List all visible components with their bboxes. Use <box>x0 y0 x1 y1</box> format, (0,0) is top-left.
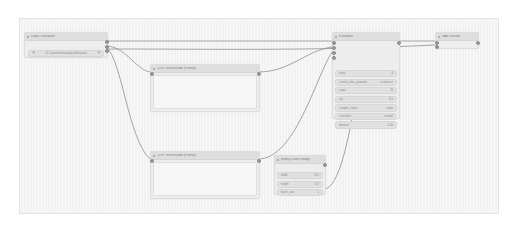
widget-seed[interactable]: seed 0 <box>335 70 397 77</box>
node-title-bar[interactable]: VAE Decode <box>436 33 478 41</box>
node-clip-text-encode-positive[interactable]: CLIP Text Encode (Prompt) <box>150 64 260 112</box>
node-graph-canvas[interactable]: Load Checkpoint ◀ v1-5-pruned-emaonly.sa… <box>19 18 499 214</box>
widget-label: control_after_generate <box>339 81 367 84</box>
widget-steps[interactable]: steps 20 <box>335 87 397 94</box>
widget-label: cfg <box>339 98 343 101</box>
node-body: width 512 height 512 batch_size 1 <box>275 164 325 198</box>
widget-batch-size[interactable]: batch_size 1 <box>277 189 323 196</box>
widget-label: steps <box>339 89 346 92</box>
widget-label: scheduler <box>339 115 351 118</box>
widget-control-after-generate[interactable]: control_after_generate randomize <box>335 79 397 86</box>
collapse-icon[interactable] <box>277 159 279 161</box>
node-title-text: VAE Decode <box>442 35 460 38</box>
node-title-text: Load Checkpoint <box>31 35 55 38</box>
widget-value: 20 <box>390 89 393 92</box>
collapse-icon[interactable] <box>438 36 440 38</box>
node-title-bar[interactable]: Empty Latent Image <box>275 156 325 164</box>
node-title-bar[interactable]: KSampler <box>333 33 399 41</box>
widget-value: 512 <box>314 174 319 177</box>
collapse-icon[interactable] <box>335 36 337 38</box>
node-title-text: CLIP Text Encode (Prompt) <box>157 154 196 157</box>
node-title-text: Empty Latent Image <box>281 158 310 161</box>
widget-ckpt-name[interactable]: ◀ v1-5-pruned-emaonly.safetensors ▶ <box>28 50 104 57</box>
node-empty-latent-image[interactable]: Empty Latent Image width 512 height 512 … <box>274 155 326 195</box>
widget-value: randomize <box>380 81 393 84</box>
widget-value: 1 <box>317 191 319 194</box>
widget-cfg[interactable]: cfg 8.0 <box>335 96 397 103</box>
widget-label: seed <box>339 72 345 75</box>
node-title-text: CLIP Text Encode (Prompt) <box>157 67 196 70</box>
collapse-icon[interactable] <box>27 36 29 38</box>
widget-height[interactable]: height 512 <box>277 181 323 188</box>
widget-denoise[interactable]: denoise 1.00 <box>335 121 397 128</box>
widget-value: 8.0 <box>389 98 393 101</box>
prompt-text <box>154 76 256 79</box>
node-ksampler[interactable]: KSampler seed 0 control_after_generate r… <box>332 32 400 119</box>
widget-increment-icon[interactable]: ▶ <box>98 52 100 55</box>
widget-label: sampler_name <box>339 107 358 110</box>
node-body: ◀ v1-5-pruned-emaonly.safetensors ▶ <box>25 41 107 59</box>
widget-value: v1-5-pruned-emaonly.safetensors <box>45 52 87 55</box>
node-body <box>436 41 478 51</box>
node-body: seed 0 control_after_generate randomize … <box>333 41 399 131</box>
widget-label: width <box>281 174 288 177</box>
prompt-textarea[interactable] <box>153 75 257 109</box>
node-load-checkpoint[interactable]: Load Checkpoint ◀ v1-5-pruned-emaonly.sa… <box>24 32 108 58</box>
node-body <box>151 73 259 111</box>
screenshot-root: Load Checkpoint ◀ v1-5-pruned-emaonly.sa… <box>0 0 516 231</box>
widget-value: normal <box>384 115 393 118</box>
widget-decrement-icon[interactable]: ◀ <box>32 52 34 55</box>
node-body <box>151 160 259 198</box>
node-title-text: KSampler <box>339 35 353 38</box>
widget-label: batch_size <box>281 191 294 194</box>
widget-label: height <box>281 183 289 186</box>
widget-width[interactable]: width 512 <box>277 172 323 179</box>
widget-value: 1.00 <box>388 124 393 127</box>
prompt-textarea[interactable] <box>153 162 257 196</box>
widget-label: denoise <box>339 124 349 127</box>
widget-sampler-name[interactable]: sampler_name euler <box>335 104 397 111</box>
node-title-bar[interactable]: Load Checkpoint <box>25 33 107 41</box>
widget-value: euler <box>387 107 393 110</box>
widget-scheduler[interactable]: scheduler normal <box>335 113 397 120</box>
widget-value: 0 <box>391 72 393 75</box>
widget-value: 512 <box>314 183 319 186</box>
node-clip-text-encode-negative[interactable]: CLIP Text Encode (Prompt) <box>150 151 260 199</box>
collapse-icon[interactable] <box>153 68 155 70</box>
prompt-text <box>154 163 256 166</box>
node-vae-decode[interactable]: VAE Decode <box>435 32 479 49</box>
node-title-bar[interactable]: CLIP Text Encode (Prompt) <box>151 152 259 160</box>
collapse-icon[interactable] <box>153 155 155 157</box>
node-title-bar[interactable]: CLIP Text Encode (Prompt) <box>151 65 259 73</box>
